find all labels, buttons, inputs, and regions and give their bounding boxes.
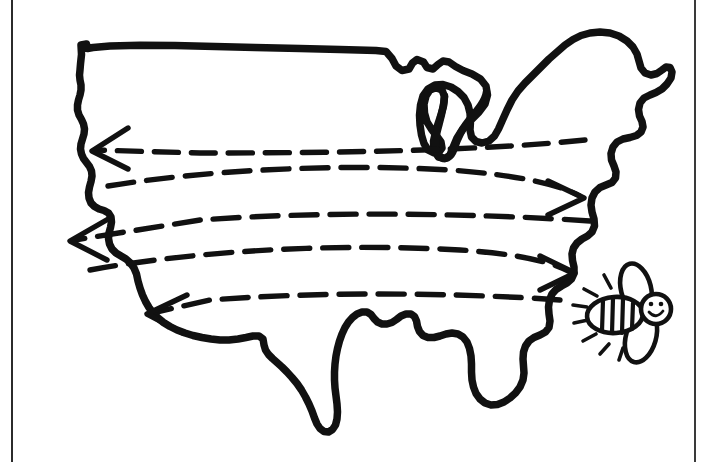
flow-line-3-dashes (75, 214, 590, 240)
motion-line-7 (619, 348, 623, 360)
flow-line-1 (92, 128, 585, 169)
flow-line-4-dashes (90, 247, 570, 272)
flow-line-5-arrowhead (147, 295, 187, 333)
flow-line-3-arrowhead (70, 218, 110, 260)
united-states-outline (78, 32, 673, 432)
bee-eye-right (659, 302, 664, 307)
flow-line-2-dashes (108, 167, 580, 196)
bee-head (641, 294, 671, 324)
bee-stripe-2 (612, 298, 613, 333)
flow-line-2-arrowhead (548, 181, 584, 215)
motion-line-6 (600, 344, 609, 354)
map-illustration-svg (0, 0, 709, 462)
us-border-path (78, 32, 673, 432)
motion-line-2 (584, 289, 597, 296)
motion-line-1 (604, 275, 611, 288)
illustration-page: contiguous United States cartoon-bee (0, 0, 709, 462)
artboard (0, 0, 709, 462)
flow-line-2 (108, 167, 584, 215)
bee-stripe-4 (632, 303, 633, 329)
flow-line-3 (70, 214, 590, 260)
bee-stripe-1 (602, 300, 603, 331)
flow-line-4 (90, 247, 575, 290)
bee-stripe-3 (622, 299, 623, 333)
flow-line-5-dashes (152, 294, 560, 313)
motion-line-3 (573, 305, 587, 307)
flow-line-1-dashes (95, 140, 585, 153)
bee-eye-left (649, 302, 654, 307)
cartoon-bee (573, 260, 671, 366)
motion-line-5 (583, 334, 596, 341)
